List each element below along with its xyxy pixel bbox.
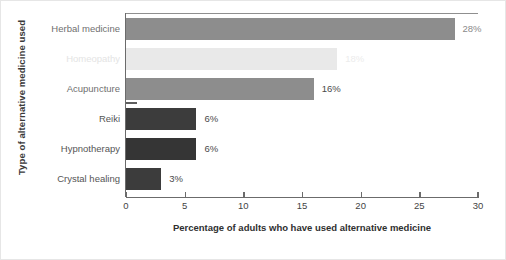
x-tick-label: 5 bbox=[170, 200, 200, 211]
bar-row: 6% bbox=[126, 134, 478, 164]
bar-row: 3% bbox=[126, 164, 478, 194]
x-tick bbox=[126, 192, 127, 198]
x-tick-label: 10 bbox=[228, 200, 258, 211]
x-axis-title: Percentage of adults who have used alter… bbox=[126, 222, 478, 233]
category-axis-labels: Herbal medicineHomeopathyAcupunctureReik… bbox=[24, 14, 120, 196]
bar bbox=[126, 78, 314, 100]
bar-value-label: 6% bbox=[204, 113, 218, 124]
bar bbox=[126, 168, 161, 190]
category-label: Reiki bbox=[24, 113, 120, 124]
x-tick-label: 25 bbox=[404, 200, 434, 211]
x-tick bbox=[302, 192, 303, 198]
bar-value-label: 16% bbox=[322, 83, 341, 94]
bar bbox=[126, 48, 337, 70]
category-label: Homeopathy bbox=[24, 53, 120, 64]
bar-row: 6% bbox=[126, 104, 478, 134]
bar bbox=[126, 138, 196, 160]
bar-row: 28% bbox=[126, 14, 478, 44]
bar-row: 18% bbox=[126, 44, 478, 74]
x-tick bbox=[478, 192, 479, 198]
bar-row: 16% bbox=[126, 74, 478, 104]
category-label: Acupuncture bbox=[24, 83, 120, 94]
x-tick-label: 30 bbox=[463, 200, 493, 211]
plot-area: 28%18%16%6%6%3% bbox=[126, 14, 478, 196]
category-label: Hypnotherapy bbox=[24, 143, 120, 154]
bar bbox=[126, 18, 455, 40]
x-tick-label: 0 bbox=[111, 200, 141, 211]
x-tick bbox=[243, 192, 244, 198]
x-tick-label: 20 bbox=[346, 200, 376, 211]
x-tick bbox=[185, 192, 186, 198]
category-label: Herbal medicine bbox=[24, 23, 120, 34]
bar-value-label: 28% bbox=[463, 23, 482, 34]
category-label: Crystal healing bbox=[24, 173, 120, 184]
bar-value-label: 18% bbox=[345, 53, 364, 64]
x-tick-label: 15 bbox=[287, 200, 317, 211]
bar-value-label: 3% bbox=[169, 173, 183, 184]
x-tick bbox=[361, 192, 362, 198]
bar-chart: Type of alternative medicine used Herbal… bbox=[0, 0, 506, 260]
x-tick bbox=[419, 192, 420, 198]
bar-value-label: 6% bbox=[204, 143, 218, 154]
bar bbox=[126, 108, 196, 130]
